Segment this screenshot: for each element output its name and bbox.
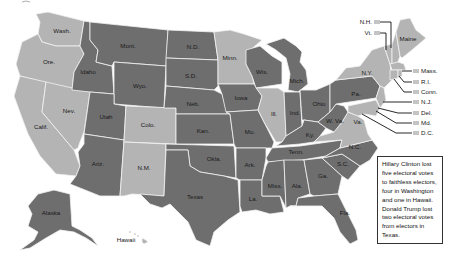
svg-text:S.D.: S.D. xyxy=(185,72,197,79)
label-ariz: Ariz. xyxy=(92,160,105,167)
label-sc: S.C. xyxy=(337,160,349,167)
svg-text:N.Y.: N.Y. xyxy=(361,69,373,76)
svg-text:D.C.: D.C. xyxy=(421,129,434,136)
state-conn[interactable] xyxy=(390,70,398,80)
swatch-del xyxy=(413,111,419,115)
label-va: Va. xyxy=(354,118,363,125)
svg-text:Miss.: Miss. xyxy=(268,182,283,189)
svg-text:N.J.: N.J. xyxy=(421,98,432,105)
label-mich: Mich. xyxy=(290,77,305,84)
svg-text:Va.: Va. xyxy=(354,118,363,125)
label-ark: Ark. xyxy=(244,161,255,168)
state-alaska[interactable] xyxy=(20,190,98,250)
label-maine: Maine xyxy=(400,35,417,42)
svg-text:N.M.: N.M. xyxy=(137,164,150,171)
svg-text:Nev.: Nev. xyxy=(63,107,76,114)
label-okla: Okla. xyxy=(207,155,222,162)
svg-text:Kan.: Kan. xyxy=(197,127,210,134)
svg-text:Fla.: Fla. xyxy=(340,209,351,216)
state-fla[interactable] xyxy=(290,194,358,244)
svg-text:N.H.: N.H. xyxy=(360,18,373,25)
svg-text:Okla.: Okla. xyxy=(207,155,222,162)
label-minn: Minn. xyxy=(222,54,237,61)
label-la: La. xyxy=(249,195,258,202)
svg-text:Ark.: Ark. xyxy=(244,161,255,168)
state-md-del[interactable] xyxy=(348,100,380,116)
label-vt: Vt. xyxy=(364,29,372,36)
swatch-nj xyxy=(413,100,419,104)
label-del: Del. xyxy=(421,109,432,116)
label-kan: Kan. xyxy=(197,127,210,134)
label-ill: Ill. xyxy=(271,110,277,117)
state-mass[interactable] xyxy=(390,62,406,70)
label-nev: Nev. xyxy=(63,107,76,114)
swatch-mass xyxy=(413,69,419,73)
note-text: Hillary Clinton lost five electoral vote… xyxy=(382,160,437,238)
svg-text:Ill.: Ill. xyxy=(271,110,277,117)
label-ri: R.I. xyxy=(421,78,431,85)
label-utah: Utah xyxy=(99,113,113,120)
label-texas: Texas xyxy=(187,193,203,200)
svg-text:Ariz.: Ariz. xyxy=(92,160,105,167)
svg-text:Conn.: Conn. xyxy=(421,88,438,95)
svg-text:Ga.: Ga. xyxy=(318,172,328,179)
svg-text:Alaska: Alaska xyxy=(42,209,61,216)
svg-text:Del.: Del. xyxy=(421,109,432,116)
label-ind: Ind. xyxy=(290,109,301,116)
label-alaska: Alaska xyxy=(42,209,61,216)
state-hawaii[interactable] xyxy=(142,238,148,244)
faithless-electors-note: Hillary Clinton lost five electoral vote… xyxy=(377,156,443,244)
label-miss: Miss. xyxy=(268,182,283,189)
label-iowa: Iowa xyxy=(234,94,248,101)
svg-text:Ky.: Ky. xyxy=(306,131,315,138)
swatch-nh xyxy=(374,20,380,24)
svg-text:S.C.: S.C. xyxy=(337,160,349,167)
svg-text:Md.: Md. xyxy=(421,119,432,126)
label-wva: W. Va. xyxy=(326,117,344,124)
svg-text:N.D.: N.D. xyxy=(187,43,200,50)
label-nm: N.M. xyxy=(137,164,150,171)
svg-text:Idaho: Idaho xyxy=(80,68,96,75)
hawaii-island xyxy=(129,231,131,233)
label-nh: N.H. xyxy=(360,18,373,25)
label-md: Md. xyxy=(421,119,432,126)
leader-dc xyxy=(362,114,412,133)
svg-text:Calif.: Calif. xyxy=(34,123,48,130)
svg-text:Minn.: Minn. xyxy=(222,54,237,61)
svg-text:Mich.: Mich. xyxy=(290,77,305,84)
svg-text:Vt.: Vt. xyxy=(364,29,372,36)
label-dc: D.C. xyxy=(421,129,434,136)
label-mass: Mass. xyxy=(421,67,438,74)
svg-text:Tenn.: Tenn. xyxy=(288,148,303,155)
svg-text:Maine: Maine xyxy=(400,35,417,42)
label-nc: N.C. xyxy=(349,143,362,150)
swatch-conn xyxy=(413,90,419,94)
label-tenn: Tenn. xyxy=(288,148,303,155)
svg-text:Wyo.: Wyo. xyxy=(133,82,147,89)
svg-text:N.C.: N.C. xyxy=(349,143,362,150)
swatch-dc xyxy=(413,131,419,135)
svg-text:R.I.: R.I. xyxy=(421,78,431,85)
svg-text:Ore.: Ore. xyxy=(43,58,55,65)
label-hawaii: Hawaii xyxy=(117,236,136,243)
label-wis: Wis. xyxy=(256,68,268,75)
svg-text:Utah: Utah xyxy=(99,113,113,120)
leader-del xyxy=(378,108,412,113)
label-nd: N.D. xyxy=(187,43,200,50)
svg-text:Neb.: Neb. xyxy=(186,100,199,107)
svg-text:W. Va.: W. Va. xyxy=(326,117,344,124)
label-ny: N.Y. xyxy=(361,69,373,76)
label-ore: Ore. xyxy=(43,58,55,65)
label-ga: Ga. xyxy=(318,172,328,179)
label-neb: Neb. xyxy=(186,100,199,107)
svg-text:Ala.: Ala. xyxy=(292,182,303,189)
svg-text:Mass.: Mass. xyxy=(421,67,438,74)
svg-text:Wash.: Wash. xyxy=(53,27,71,34)
leader-nh xyxy=(380,22,391,48)
label-nj: N.J. xyxy=(421,98,432,105)
svg-text:La.: La. xyxy=(249,195,258,202)
svg-text:Mont.: Mont. xyxy=(120,42,136,49)
label-fla: Fla. xyxy=(340,209,351,216)
label-mont: Mont. xyxy=(120,42,136,49)
label-ky: Ky. xyxy=(306,131,315,138)
